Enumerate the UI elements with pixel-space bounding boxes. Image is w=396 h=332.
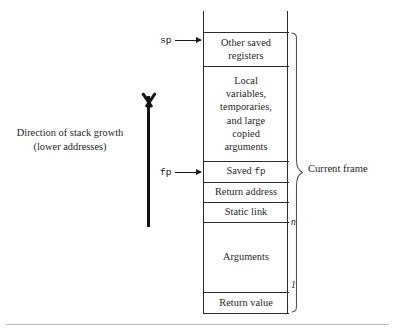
stack-bottom-border xyxy=(203,313,289,314)
stack-cell-static-link: Static link xyxy=(203,202,289,222)
arguments-bottom-index: 1 xyxy=(291,279,296,290)
figure-bottom-rule xyxy=(6,324,389,325)
pointer-fp-arrow-icon xyxy=(175,172,201,174)
stack-cell-locals-label: Localvariables,temporaries,and largecopi… xyxy=(218,74,274,153)
arrow-head xyxy=(140,90,158,110)
stack-column: Other savedregisters Localvariables,temp… xyxy=(203,11,289,314)
stack-cell-locals: Localvariables,temporaries,and largecopi… xyxy=(203,66,289,161)
stack-frame-figure: Other savedregisters Localvariables,temp… xyxy=(0,0,396,332)
stack-growth-caption-line2: (lower addresses) xyxy=(6,140,134,154)
stack-growth-arrow-icon xyxy=(140,90,158,227)
arrow-stem xyxy=(147,96,150,227)
stack-cell-saved-fp-label: Saved fp xyxy=(224,164,267,178)
stack-cell-return-value: Return value xyxy=(203,292,289,313)
stack-growth-caption: Direction of stack growth (lower address… xyxy=(6,126,134,154)
stack-growth-caption-line1: Direction of stack growth xyxy=(6,126,134,140)
stack-cell-other-saved-registers-label: Other savedregisters xyxy=(219,36,273,62)
stack-cell-saved-fp: Saved fp xyxy=(203,161,289,182)
stack-cell-return-address: Return address xyxy=(203,182,289,202)
stack-cell-static-link-label: Static link xyxy=(223,205,270,218)
stack-cell-other-saved-registers: Other savedregisters xyxy=(203,32,289,66)
arguments-top-index: n xyxy=(291,216,296,227)
pointer-fp-label: fp xyxy=(160,167,172,178)
stack-cell-arguments-label: Arguments xyxy=(221,250,271,263)
pointer-sp-arrow-icon xyxy=(175,40,201,42)
stack-cell-return-address-label: Return address xyxy=(213,185,279,198)
pointer-fp: fp xyxy=(160,167,201,178)
pointer-sp-label: sp xyxy=(160,35,172,46)
saved-fp-register-name: fp xyxy=(254,166,265,177)
current-frame-label: Current frame xyxy=(308,163,368,174)
stack-cell-return-value-label: Return value xyxy=(217,296,275,309)
stack-cell-arguments: Arguments xyxy=(203,222,289,292)
current-frame-brace-icon xyxy=(291,32,304,313)
pointer-sp: sp xyxy=(160,35,201,46)
